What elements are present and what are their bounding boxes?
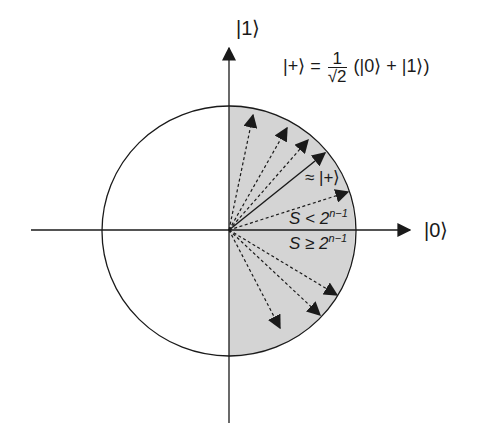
shaded-half-disk xyxy=(229,105,355,357)
s-geq-text: S ≥ 2 xyxy=(289,234,329,253)
s-geq-exponent: n−1 xyxy=(329,232,348,244)
fraction-numerator: 1 xyxy=(328,50,347,68)
s-geq-label: S ≥ 2n−1 xyxy=(289,232,347,254)
ket-0-label: |0⟩ xyxy=(424,218,448,242)
s-less-text: S < 2 xyxy=(289,209,329,228)
equation-rhs: (|0⟩ + |1⟩) xyxy=(354,56,430,76)
plus-state-equation: |+⟩ = 1 √2 (|0⟩ + |1⟩) xyxy=(283,50,429,85)
ket-1-label: |1⟩ xyxy=(236,16,260,40)
approx-plus-label: ≈ |+⟩ xyxy=(305,167,340,188)
fraction: 1 √2 xyxy=(328,50,347,85)
s-less-label: S < 2n−1 xyxy=(289,207,348,229)
fraction-denominator: √2 xyxy=(328,68,347,85)
s-less-exponent: n−1 xyxy=(329,207,348,219)
equation-lhs: |+⟩ = xyxy=(283,56,321,76)
